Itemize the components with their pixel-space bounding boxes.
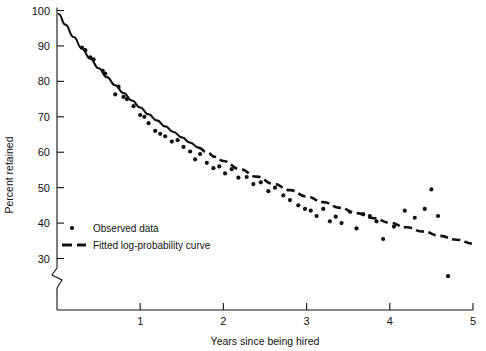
data-point (116, 85, 120, 89)
data-point (163, 134, 167, 138)
fitted-curve-dashed-segment (198, 148, 473, 244)
data-point (236, 176, 240, 180)
data-point (83, 48, 87, 52)
y-axis-tick-label: 90 (38, 40, 50, 52)
data-point (146, 121, 150, 125)
data-point (309, 209, 313, 213)
data-point (296, 203, 300, 207)
y-axis-tick-label: 80 (38, 75, 50, 87)
data-point (193, 157, 197, 161)
data-point (374, 219, 378, 223)
data-point (334, 215, 338, 219)
data-point (125, 97, 129, 101)
data-point (170, 139, 174, 143)
data-point (403, 209, 407, 213)
chart-canvas: 30405060708090100 12345 Percent retained… (0, 0, 486, 351)
data-point (314, 214, 318, 218)
data-point (348, 210, 352, 214)
data-point (217, 164, 221, 168)
data-point (339, 221, 343, 225)
data-point (103, 71, 107, 75)
data-point (303, 207, 307, 211)
x-axis-tick-group: 12345 (137, 303, 476, 327)
y-axis-tick-group: 30405060708090100 (32, 5, 64, 265)
data-point (198, 152, 202, 156)
y-axis-break-symbol (52, 268, 62, 288)
chart-figure: 30405060708090100 12345 Percent retained… (0, 0, 486, 351)
data-point (392, 225, 396, 229)
data-point (138, 113, 142, 117)
y-axis-tick-label: 70 (38, 111, 50, 123)
x-axis-tick-label: 2 (220, 315, 226, 327)
data-point (176, 138, 180, 142)
y-axis-tick-label: 30 (38, 253, 50, 265)
data-point (281, 193, 285, 197)
data-point (259, 180, 263, 184)
data-point (413, 216, 417, 220)
data-point (266, 189, 270, 193)
data-point (80, 46, 84, 50)
y-axis-tick-label: 50 (38, 182, 50, 194)
legend-label-observed: Observed data (93, 223, 159, 234)
data-point (153, 129, 157, 133)
data-point (429, 187, 433, 191)
data-point (223, 171, 227, 175)
y-axis-tick-label: 60 (38, 146, 50, 158)
data-point (92, 57, 96, 61)
y-axis-tick-label: 40 (38, 217, 50, 229)
x-axis-tick-label: 3 (304, 315, 310, 327)
data-point (354, 226, 358, 230)
data-point (251, 182, 255, 186)
data-point (381, 237, 385, 241)
data-point (321, 207, 325, 211)
data-point (423, 207, 427, 211)
data-point (273, 186, 277, 190)
data-point (361, 212, 365, 216)
chart-legend: Observed data Fitted log-probability cur… (62, 223, 211, 251)
data-point (158, 132, 162, 136)
fitted-curve-solid-segment (59, 14, 199, 148)
data-point (113, 92, 117, 96)
data-point (131, 104, 135, 108)
data-point (368, 214, 372, 218)
data-point (245, 175, 249, 179)
x-axis-tick-label: 5 (470, 315, 476, 327)
x-axis-label: Years since being hired (211, 335, 320, 347)
data-point (436, 214, 440, 218)
data-point (328, 219, 332, 223)
data-point (181, 145, 185, 149)
y-axis-tick-label: 100 (32, 5, 50, 17)
legend-label-fitted: Fitted log-probability curve (93, 240, 211, 251)
x-axis-tick-label: 1 (137, 315, 143, 327)
data-point (211, 166, 215, 170)
data-point (288, 198, 292, 202)
data-point (230, 167, 234, 171)
data-point (188, 149, 192, 153)
legend-marker-observed-dot (70, 226, 74, 230)
data-point (205, 161, 209, 165)
data-point (446, 274, 450, 278)
data-point (142, 115, 146, 119)
y-axis-label: Percent retained (3, 136, 15, 213)
x-axis-tick-label: 4 (387, 315, 393, 327)
